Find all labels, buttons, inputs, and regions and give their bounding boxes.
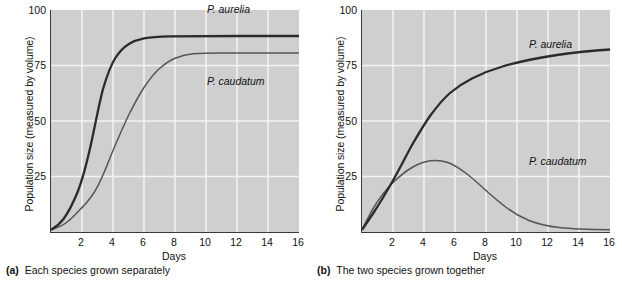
caption-text-b: The two species grown together [336,264,485,276]
x-tick-8-b: 8 [470,236,500,248]
x-tick-12-a: 12 [221,236,251,248]
x-tick-6-b: 6 [439,236,469,248]
y-tick-100-b: 100 [315,5,357,15]
y-tick-75-b: 75 [315,60,357,70]
x-tick-10-b: 10 [501,236,531,248]
x-tick-4-a: 4 [97,236,127,248]
figure-competitive-exclusion: Population size (measured by volume) 100… [0,0,622,285]
caption-marker-b: (b) [317,264,330,276]
caption-marker-a: (a) [6,264,19,276]
y-tick-labels-b: 100 75 50 25 [311,0,357,240]
x-tick-12-b: 12 [532,236,562,248]
x-tick-2-b: 2 [377,236,407,248]
x-tick-6-a: 6 [128,236,158,248]
x-tick-16-a: 16 [283,236,313,248]
y-tick-labels-a: 100 75 50 25 [0,0,46,240]
plot-area-a: P. aurelia P. caudatum [50,10,299,233]
caption-a: (a) Each species grown separately [6,264,170,276]
x-tick-16-b: 16 [594,236,622,248]
y-tick-50-a: 50 [4,116,46,126]
x-axis-title-b: Days [361,250,609,262]
series-label-aurelia-b: P. aurelia [529,38,572,50]
caption-text-a: Each species grown separately [25,264,170,276]
y-tick-100-a: 100 [4,5,46,15]
series-label-caudatum-b: P. caudatum [529,155,587,167]
x-tick-10-a: 10 [190,236,220,248]
y-tick-75-a: 75 [4,60,46,70]
x-axis-title-a: Days [50,250,298,262]
x-tick-4-b: 4 [408,236,438,248]
series-label-aurelia-a: P. aurelia [207,3,250,15]
panel-a: Population size (measured by volume) 100… [0,0,311,285]
plot-area-b: P. aurelia P. caudatum [361,10,610,233]
panel-b: Population size (measured by volume) 100… [311,0,622,285]
x-tick-14-a: 14 [252,236,282,248]
y-tick-50-b: 50 [315,116,357,126]
y-tick-25-b: 25 [315,171,357,181]
series-label-caudatum-a: P. caudatum [207,75,265,87]
y-tick-25-a: 25 [4,171,46,181]
x-tick-8-a: 8 [159,236,189,248]
caption-b: (b) The two species grown together [317,264,485,276]
x-tick-14-b: 14 [563,236,593,248]
x-tick-2-a: 2 [66,236,96,248]
